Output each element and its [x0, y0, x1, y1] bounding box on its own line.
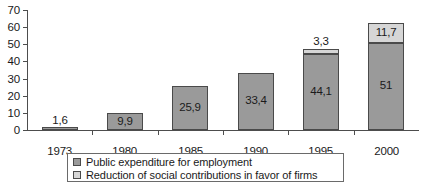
legend-item-public-expenditure: Public expenditure for employment [73, 156, 343, 168]
bar-group[interactable]: 33,4 [238, 73, 274, 130]
bar-group[interactable]: 5111,7 [368, 23, 404, 130]
x-axis-tick [288, 131, 289, 135]
legend-label: Public expenditure for employment [86, 157, 252, 168]
bar-value-label: 9,9 [108, 116, 142, 128]
y-axis-tick [23, 44, 28, 45]
bar-value-label: 1,6 [43, 115, 77, 127]
legend-swatch-icon-light [73, 171, 81, 179]
bar-segment-public-expenditure[interactable]: 33,4 [238, 73, 274, 130]
bar-value-label: 3,3 [304, 36, 338, 48]
bar-value-label: 25,9 [173, 102, 207, 114]
plot-area: 010203040506070 1,69,925,933,444,13,3511… [27, 10, 419, 131]
bar-group[interactable]: 9,9 [107, 113, 143, 130]
x-axis-label: 2000 [354, 146, 419, 158]
bar-segment-public-expenditure[interactable]: 44,1 [303, 54, 339, 130]
y-axis-tick-label: 30 [0, 74, 20, 86]
x-axis-tick [354, 131, 355, 135]
y-axis-tick [23, 61, 28, 62]
bar-value-label: 44,1 [304, 86, 338, 98]
stacked-bar-chart: 010203040506070 1,69,925,933,444,13,3511… [0, 0, 421, 187]
y-axis-tick-label: 40 [0, 56, 20, 68]
y-axis-tick [23, 96, 28, 97]
bar-segment-social-contributions[interactable]: 3,3 [303, 49, 339, 55]
bar-segment-social-contributions[interactable]: 11,7 [368, 23, 404, 43]
y-axis-tick-label: 10 [0, 108, 20, 120]
x-axis-tick [158, 131, 159, 135]
legend-item-social-contributions: Reduction of social contributions in fav… [73, 169, 343, 181]
x-axis-tick [223, 131, 224, 135]
bar-segment-public-expenditure[interactable]: 1,6 [42, 127, 78, 130]
bar-group[interactable]: 1,6 [42, 127, 78, 130]
y-axis-tick-label: 60 [0, 22, 20, 34]
y-axis-tick-label: 20 [0, 91, 20, 103]
bar-value-label: 11,7 [369, 27, 403, 39]
bar-group[interactable]: 25,9 [172, 86, 208, 130]
bar-value-label: 33,4 [239, 95, 273, 107]
bar-group[interactable]: 44,13,3 [303, 49, 339, 130]
bar-segment-public-expenditure[interactable]: 25,9 [172, 86, 208, 130]
legend-label: Reduction of social contributions in fav… [86, 170, 318, 181]
y-axis-tick-label: 70 [0, 5, 20, 17]
bar-value-label: 51 [369, 80, 403, 92]
x-axis-tick [92, 131, 93, 135]
y-axis-tick [23, 79, 28, 80]
bar-segment-public-expenditure[interactable]: 9,9 [107, 113, 143, 130]
y-axis-tick [23, 27, 28, 28]
y-axis-tick [23, 113, 28, 114]
bar-segment-public-expenditure[interactable]: 51 [368, 43, 404, 130]
y-axis-tick [23, 10, 28, 11]
y-axis-tick-label: 50 [0, 39, 20, 51]
chart-legend: Public expenditure for employment Reduct… [67, 153, 344, 182]
y-axis-tick [23, 130, 28, 131]
legend-swatch-icon-dark [73, 158, 81, 166]
y-axis-tick-label: 0 [0, 125, 20, 137]
